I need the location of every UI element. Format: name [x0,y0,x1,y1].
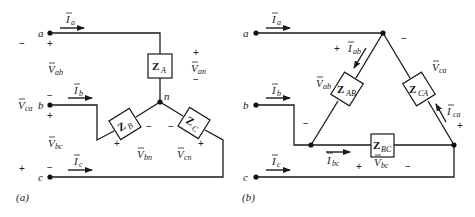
svg-text:b: b [79,89,83,98]
terminal-a [253,30,258,35]
svg-text:ca: ca [25,104,33,113]
sign-plus: + [457,120,463,131]
svg-text:b: b [277,89,281,98]
svg-text:bn: bn [144,153,152,162]
current-iab: I ab [347,42,366,68]
current-ia: I a [60,13,84,28]
sign-minus: − [168,121,174,132]
label-node-c: c [243,171,248,183]
impedance-zca: Z CA [401,72,435,107]
wire-c [256,145,454,177]
sign-minus: − [193,74,199,85]
voltage-vca: V ca [432,61,447,75]
current-ibc: I bc [326,152,350,168]
wire-b [256,105,371,145]
sign-plus: + [198,138,204,149]
panel-b-delta-load: Z AB Z CA Z BC a b c I a [242,13,463,204]
svg-text:ab: ab [55,68,63,77]
impedance-zbc: Z BC [371,134,394,157]
sign-plus: + [193,47,199,58]
sign-plus: + [47,38,53,49]
label-node-a: a [38,27,44,39]
current-ib: I b [68,84,92,98]
wire-zab-to-left [311,101,338,145]
voltage-vab: V ab [48,63,63,77]
impedance-zb: Z B [109,108,141,139]
svg-text:ab: ab [323,82,331,91]
sign-minus: − [19,38,25,49]
impedance-zab: Z AB [330,72,364,107]
svg-text:ca: ca [439,66,447,75]
sign-minus: − [47,90,53,101]
sign-plus: + [114,138,120,149]
terminal-b [253,102,258,107]
label-node-a: a [243,27,249,39]
sign-plus: + [356,161,362,172]
terminal-a [47,30,52,35]
svg-text:c: c [79,160,83,169]
svg-text:a: a [71,18,75,27]
svg-text:bc: bc [332,159,340,168]
label-node-b: b [243,99,249,111]
sign-plus: + [19,163,25,174]
svg-text:BC: BC [381,145,392,154]
sign-plus: + [47,110,53,121]
svg-text:Z: Z [373,139,380,151]
sign-minus: − [401,33,407,44]
svg-text:bc: bc [55,142,63,151]
svg-text:cn: cn [184,153,192,162]
three-phase-load-diagram: Z A Z B Z C a b c n I a I b [0,0,475,217]
terminal-c [253,174,258,179]
svg-text:Z: Z [409,83,416,95]
svg-text:Z: Z [152,60,159,72]
svg-text:CA: CA [418,89,428,98]
svg-text:an: an [198,67,206,76]
voltage-vbc: V bc [48,137,63,151]
sign-minus: − [146,121,152,132]
sign-minus: − [405,161,411,172]
delta-node-right [451,142,456,147]
label-node-n: n [164,90,170,102]
current-ic: I c [68,155,92,170]
svg-text:I: I [446,105,452,117]
caption-b: (b) [242,191,255,204]
terminal-b [47,102,52,107]
svg-text:bc: bc [381,161,389,170]
svg-text:AB: AB [345,89,356,98]
panel-a-wye-load: Z A Z B Z C a b c n I a I b [16,13,223,204]
svg-text:a: a [277,18,281,27]
svg-text:Z: Z [337,83,344,95]
voltage-vcn: V cn [177,148,192,162]
voltage-vbn: V bn [137,148,152,162]
label-node-c: c [38,171,43,183]
impedance-za: Z A [148,54,172,78]
voltage-vca: V ca [18,99,33,113]
caption-a: (a) [16,191,29,204]
svg-text:ca: ca [453,110,461,119]
wire-b [50,105,114,140]
svg-text:c: c [277,160,281,169]
current-ia: I a [266,13,290,28]
sign-plus: + [334,43,340,54]
delta-node-left [308,142,313,147]
impedance-zc: Z C [178,107,210,138]
current-ic: I c [266,155,290,170]
svg-text:ab: ab [353,47,361,56]
voltage-vab: V ab [316,77,331,91]
current-ib: I b [266,84,290,98]
label-node-b: b [38,99,44,111]
delta-node-top [380,30,385,35]
neutral-node-n [157,99,162,104]
terminal-c [47,174,52,179]
sign-minus: − [303,118,309,129]
wire-a [50,33,160,54]
sign-minus: − [47,162,53,173]
svg-text:A: A [160,66,166,75]
